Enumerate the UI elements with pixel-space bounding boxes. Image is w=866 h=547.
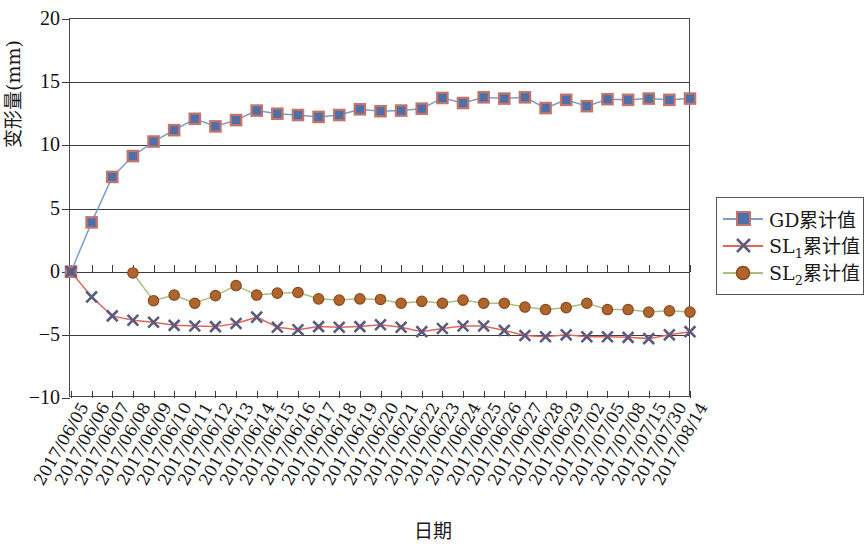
legend-marker-cross-icon: [723, 235, 763, 257]
series-1: [66, 92, 695, 277]
data-point: [128, 151, 138, 161]
legend-item-gd: GD累计值: [723, 205, 857, 232]
chart-legend: GD累计值 SL1累计值 SL2累计值: [716, 197, 864, 295]
data-point: [602, 304, 612, 314]
data-point: [169, 290, 179, 300]
data-point: [396, 105, 406, 115]
y-tick-mark: [62, 398, 70, 399]
data-point: [190, 298, 200, 308]
data-point: [685, 307, 695, 317]
data-point: [561, 95, 571, 105]
data-point: [86, 292, 97, 303]
y-tick-label: −10: [14, 387, 60, 407]
y-tick-mark: [62, 335, 70, 336]
data-point: [272, 288, 282, 298]
data-point: [272, 109, 282, 119]
y-tick-mark: [62, 82, 70, 83]
x-axis-tick-labels: 2017/06/052017/06/062017/06/072017/06/08…: [69, 400, 690, 520]
data-point: [107, 172, 117, 182]
data-point: [437, 298, 447, 308]
data-point: [169, 125, 179, 135]
series-layer: [70, 19, 691, 398]
data-point: [582, 298, 592, 308]
data-point: [251, 312, 262, 323]
y-tick-label: 15: [14, 71, 60, 91]
legend-label-sl1: SL1累计值: [769, 231, 860, 261]
data-point: [561, 302, 571, 312]
y-tick-mark: [62, 145, 70, 146]
data-point: [210, 290, 220, 300]
series-line: [71, 97, 690, 271]
data-point: [602, 94, 612, 104]
x-axis-title: 日期: [0, 516, 866, 543]
data-point: [540, 304, 550, 314]
data-point: [375, 106, 385, 116]
y-tick-mark: [62, 19, 70, 20]
data-point: [458, 295, 468, 305]
data-point: [520, 92, 530, 102]
y-tick-label: −5: [14, 324, 60, 344]
data-point: [499, 325, 510, 336]
y-tick-mark: [62, 209, 70, 210]
data-point: [478, 92, 488, 102]
plot-area: [69, 18, 690, 397]
data-point: [231, 280, 241, 290]
data-point: [252, 105, 262, 115]
data-point: [499, 298, 509, 308]
data-point: [478, 298, 488, 308]
data-point: [231, 115, 241, 125]
data-point: [582, 101, 592, 111]
data-point: [355, 294, 365, 304]
y-tick-label: 20: [14, 8, 60, 28]
data-point: [644, 307, 654, 317]
data-point: [520, 302, 530, 312]
data-point: [148, 296, 158, 306]
data-point: [623, 304, 633, 314]
data-point: [355, 104, 365, 114]
data-point: [313, 294, 323, 304]
y-tick-label: 10: [14, 134, 60, 154]
data-point: [417, 296, 427, 306]
legend-label-sl2: SL2累计值: [769, 258, 860, 288]
data-point: [664, 95, 674, 105]
data-point: [148, 136, 158, 146]
legend-label-gd: GD累计值: [769, 205, 856, 232]
data-point: [210, 121, 220, 131]
data-point: [540, 103, 550, 113]
data-point: [664, 306, 674, 316]
data-point: [685, 93, 695, 103]
data-point: [396, 298, 406, 308]
data-point: [623, 95, 633, 105]
series-3: [128, 268, 696, 318]
data-point: [293, 110, 303, 120]
legend-item-sl1: SL1累计值: [723, 232, 857, 259]
data-point: [458, 98, 468, 108]
legend-marker-circle-icon: [723, 262, 763, 284]
data-point: [499, 93, 509, 103]
data-point: [86, 217, 96, 227]
data-point: [313, 112, 323, 122]
legend-marker-square-icon: [723, 208, 763, 230]
data-point: [437, 93, 447, 103]
data-point: [190, 114, 200, 124]
data-point: [252, 290, 262, 300]
data-point: [128, 268, 138, 278]
legend-item-sl2: SL2累计值: [723, 259, 857, 286]
data-point: [644, 93, 654, 103]
deformation-line-chart: 变形量(mm) 20151050−5−10 2017/06/052017/06/…: [0, 0, 866, 547]
data-point: [375, 294, 385, 304]
data-point: [417, 103, 427, 113]
data-point: [107, 310, 118, 321]
y-tick-label: 5: [14, 198, 60, 218]
data-point: [293, 287, 303, 297]
data-point: [334, 295, 344, 305]
y-tick-label: 0: [14, 261, 60, 281]
y-axis-title: 变形量(mm): [0, 40, 25, 148]
data-point: [334, 110, 344, 120]
